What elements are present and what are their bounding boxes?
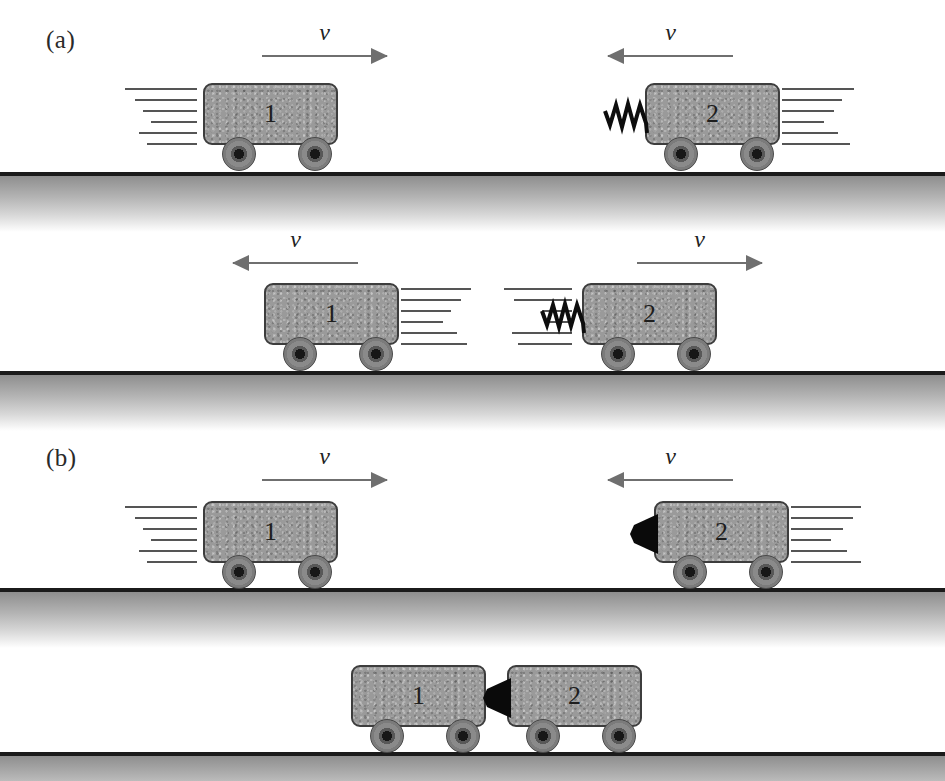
cart-body: 1 (351, 665, 486, 727)
motion-line (518, 343, 572, 345)
motion-line (791, 550, 847, 552)
arrow-head-icon (232, 255, 249, 271)
cart-body: 2 (507, 665, 642, 727)
velocity-label: v (319, 443, 330, 470)
velocity-label: v (319, 19, 330, 46)
motion-line (782, 143, 850, 145)
motion-line (401, 343, 467, 345)
cart-number-label: 2 (643, 299, 656, 329)
cart-number-label: 2 (715, 517, 728, 547)
arrow-shaft (608, 479, 733, 481)
motion-lines (125, 88, 205, 150)
cart-body: 2 (654, 501, 789, 563)
motion-line (782, 110, 834, 112)
cart-wheel (601, 337, 635, 371)
arrow-head-icon (607, 472, 624, 488)
motion-lines (782, 88, 862, 150)
arrow-head-icon (746, 255, 763, 271)
cart-body: 1 (203, 501, 338, 563)
motion-line (139, 550, 197, 552)
motion-line (782, 132, 838, 134)
motion-line (147, 143, 197, 145)
motion-line (125, 506, 197, 508)
cart-a2-one: 1 (264, 283, 399, 345)
motion-line (401, 299, 461, 301)
cart-b1-two: 2 (654, 501, 789, 563)
motion-line (125, 88, 197, 90)
cart-wheel (673, 555, 707, 589)
motion-line (782, 99, 842, 101)
cart-number-label: 1 (325, 299, 338, 329)
motion-line (139, 132, 197, 134)
motion-line (135, 99, 197, 101)
motion-line (791, 561, 861, 563)
cart-wheel (664, 137, 698, 171)
motion-line (147, 561, 197, 563)
velocity-arrow-a1-cart2: v (608, 22, 733, 68)
cart-a2-two: 2 (582, 283, 717, 345)
spring-bumper (540, 293, 586, 337)
motion-line (143, 528, 197, 530)
velcro-wedge (481, 678, 511, 718)
velocity-arrow-b1-cart1: v (262, 446, 387, 492)
velcro-wedge (628, 514, 658, 554)
ground-surface-2 (0, 371, 945, 431)
arrow-head-icon (371, 472, 388, 488)
ground-gradient (0, 176, 945, 232)
ground-surface-1 (0, 172, 945, 232)
velocity-arrow-a2-cart1: v (233, 229, 358, 275)
ground-gradient (0, 375, 945, 431)
motion-lines (401, 288, 481, 350)
velocity-arrow-a2-cart2: v (637, 229, 762, 275)
arrow-head-icon (371, 48, 388, 64)
cart-body: 2 (645, 83, 780, 145)
motion-line (791, 528, 843, 530)
motion-line (151, 539, 197, 541)
cart-wheel (526, 719, 560, 753)
cart-wheel (740, 137, 774, 171)
cart-wheel (298, 137, 332, 171)
panel-label-b: (b) (46, 444, 77, 472)
cart-wheel (749, 555, 783, 589)
ground-surface-4 (0, 752, 945, 781)
velocity-label: v (290, 226, 301, 253)
velocity-label: v (665, 19, 676, 46)
ground-gradient (0, 592, 945, 648)
cart-b1-one: 1 (203, 501, 338, 563)
velocity-arrow-a1-cart1: v (262, 22, 387, 68)
motion-line (401, 321, 443, 323)
velocity-label: v (665, 443, 676, 470)
cart-body: 1 (203, 83, 338, 145)
motion-line (791, 517, 853, 519)
motion-line (782, 121, 824, 123)
physics-collision-figure: (a)(b)vvvvvv12121212 (0, 0, 945, 781)
cart-a1-two: 2 (645, 83, 780, 145)
cart-b2-two: 2 (507, 665, 642, 727)
motion-line (135, 517, 197, 519)
motion-lines (125, 506, 205, 568)
spring-bumper (603, 93, 649, 137)
cart-a1-one: 1 (203, 83, 338, 145)
cart-wheel (370, 719, 404, 753)
motion-lines (791, 506, 871, 568)
cart-wheel (677, 337, 711, 371)
cart-number-label: 2 (706, 99, 719, 129)
motion-line (143, 110, 197, 112)
cart-wheel (446, 719, 480, 753)
panel-label-a: (a) (46, 26, 75, 54)
velocity-label: v (694, 226, 705, 253)
motion-line (782, 88, 854, 90)
cart-wheel (602, 719, 636, 753)
motion-line (504, 288, 572, 290)
cart-wheel (298, 555, 332, 589)
motion-line (791, 539, 831, 541)
motion-line (401, 310, 451, 312)
arrow-shaft (637, 262, 762, 264)
motion-line (151, 121, 197, 123)
cart-number-label: 2 (568, 681, 581, 711)
ground-gradient (0, 756, 945, 781)
arrow-shaft (608, 55, 733, 57)
cart-number-label: 1 (412, 681, 425, 711)
cart-number-label: 1 (264, 517, 277, 547)
motion-line (791, 506, 861, 508)
